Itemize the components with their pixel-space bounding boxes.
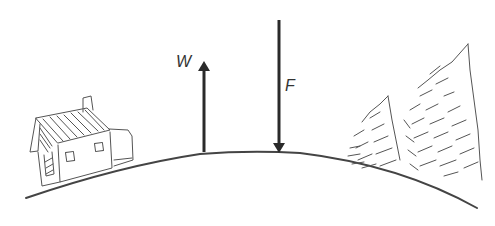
ground-curve: [26, 152, 477, 208]
f-force-label: F: [285, 78, 295, 94]
pine-trees-sketch: [348, 44, 482, 180]
force-diagram: [0, 0, 495, 226]
w-force-label: W: [176, 54, 191, 70]
house-sketch: [30, 96, 133, 186]
